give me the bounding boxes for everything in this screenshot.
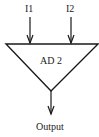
output-label: Output: [36, 122, 64, 132]
ad2-triangle-block: [6, 44, 98, 91]
input-i2-label: I2: [66, 4, 74, 14]
block-label: AD 2: [40, 56, 62, 66]
diagram-canvas: [0, 0, 99, 137]
input-i1-label: I1: [25, 4, 33, 14]
